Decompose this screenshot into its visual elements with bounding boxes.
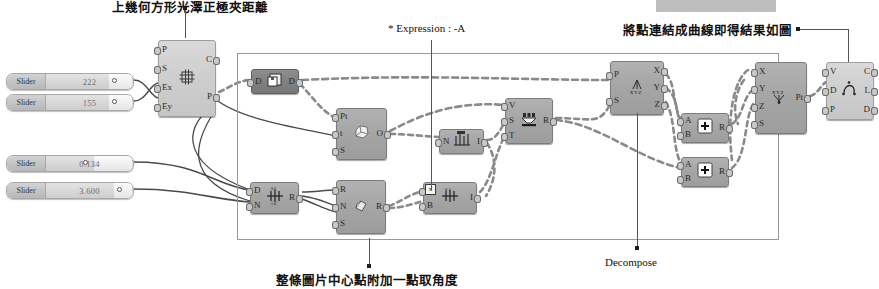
slider-track[interactable]: 155: [46, 95, 133, 110]
output-pin-r[interactable]: R: [719, 123, 725, 132]
output-port-d[interactable]: [871, 107, 878, 115]
input-port-ex[interactable]: [154, 85, 161, 93]
input-pin-b[interactable]: B: [685, 174, 691, 183]
output-pin-i[interactable]: I: [477, 137, 480, 146]
input-port-b[interactable]: [677, 176, 684, 184]
output-port-d[interactable]: [296, 79, 303, 87]
input-pin-s[interactable]: S: [509, 116, 514, 125]
output-pin-i[interactable]: I: [470, 193, 473, 202]
cluster-group-box[interactable]: [237, 53, 779, 240]
input-pin-ey[interactable]: Ey: [162, 102, 172, 111]
output-port-p[interactable]: [213, 94, 220, 102]
input-port-a[interactable]: [677, 118, 684, 126]
input-port-v[interactable]: [501, 103, 508, 111]
output-port-o[interactable]: [384, 131, 391, 139]
interpolate-curve-node[interactable]: VDPCLD: [826, 62, 874, 120]
output-pin-d[interactable]: D: [864, 105, 871, 114]
input-pin-p[interactable]: P: [830, 105, 835, 114]
input-port-n[interactable]: [332, 204, 339, 212]
input-pin-b[interactable]: B: [427, 201, 433, 210]
input-pin-r[interactable]: R: [340, 185, 346, 194]
input-port-x[interactable]: [751, 69, 758, 77]
input-pin-v[interactable]: V: [509, 101, 516, 110]
output-port-c[interactable]: [871, 69, 878, 77]
input-port-p[interactable]: [822, 107, 829, 115]
input-port-t[interactable]: [501, 133, 508, 141]
input-pin-s[interactable]: S: [340, 219, 345, 228]
input-pin-n[interactable]: N: [254, 201, 261, 210]
input-pin-y[interactable]: Y: [759, 84, 766, 93]
slider-knob[interactable]: [112, 78, 117, 83]
input-port-s[interactable]: [154, 66, 161, 74]
input-port-s[interactable]: [606, 98, 613, 106]
output-pin-x[interactable]: X: [654, 66, 661, 75]
output-port-y[interactable]: [661, 85, 668, 93]
input-pin-z[interactable]: Z: [759, 102, 765, 111]
input-port-v[interactable]: [822, 69, 829, 77]
input-pin-v[interactable]: V: [830, 67, 837, 76]
input-port-r[interactable]: [332, 187, 339, 195]
input-port-d[interactable]: [246, 188, 253, 196]
input-port-s[interactable]: [332, 148, 339, 156]
slider-output-port[interactable]: [132, 157, 134, 168]
input-port-n[interactable]: [246, 203, 253, 211]
input-pin-d[interactable]: D: [254, 186, 261, 195]
output-port-i[interactable]: [474, 195, 481, 203]
output-pin-r[interactable]: R: [376, 202, 382, 211]
input-port-b[interactable]: [419, 203, 426, 211]
input-pin-d[interactable]: D: [255, 77, 262, 86]
output-pin-r[interactable]: R: [543, 116, 549, 125]
input-port-d[interactable]: [822, 88, 829, 96]
input-pin-s[interactable]: S: [162, 64, 167, 73]
range-node[interactable]: NI: [439, 129, 484, 154]
output-port-z[interactable]: [661, 102, 668, 110]
output-port-c[interactable]: [213, 57, 220, 65]
input-port-p[interactable]: [154, 47, 161, 55]
output-pin-c[interactable]: C: [864, 67, 870, 76]
input-port-a[interactable]: [677, 162, 684, 170]
input-port-pt[interactable]: [332, 114, 339, 122]
slider-3[interactable]: Slider0.134: [6, 155, 134, 172]
output-pin-c[interactable]: C: [206, 55, 212, 64]
divide-domain-node[interactable]: DD: [251, 69, 299, 94]
output-port-r[interactable]: [383, 204, 390, 212]
output-pin-r[interactable]: R: [719, 167, 725, 176]
output-pin-o[interactable]: O: [377, 129, 384, 138]
rectangular-grid-node[interactable]: PSExEyCP: [158, 40, 216, 117]
input-port-p[interactable]: [606, 72, 613, 80]
input-pin-x[interactable]: X: [759, 67, 766, 76]
output-pin-p[interactable]: P: [207, 92, 212, 101]
input-port-y[interactable]: [751, 86, 758, 94]
input-pin-p[interactable]: P: [614, 70, 619, 79]
input-pin-pt[interactable]: Pt: [340, 112, 348, 121]
deconstruct-point-node[interactable]: X Y ZPSXYZ: [610, 61, 664, 115]
input-pin-t[interactable]: t: [340, 129, 343, 138]
input-port-b[interactable]: [677, 132, 684, 140]
input-pin-n[interactable]: N: [443, 137, 450, 146]
input-pin-s[interactable]: S: [340, 146, 345, 155]
input-pin-a[interactable]: A: [685, 160, 692, 169]
slider-track[interactable]: 3.600: [46, 183, 133, 198]
input-port-s[interactable]: [751, 121, 758, 129]
evaluate-surface-node[interactable]: PttSO: [336, 108, 387, 160]
input-port-z[interactable]: [751, 104, 758, 112]
input-port-s[interactable]: [332, 221, 339, 229]
output-pin-r[interactable]: R: [289, 193, 295, 202]
output-port-pt[interactable]: [804, 95, 811, 103]
input-pin-a[interactable]: A: [685, 116, 692, 125]
slider-track[interactable]: 0.134: [46, 156, 133, 171]
divide-curve-node[interactable]: 0.01.0DNR: [250, 182, 299, 214]
output-pin-d[interactable]: D: [289, 77, 296, 86]
input-pin-b[interactable]: B: [685, 130, 691, 139]
series-node[interactable]: VSTR: [505, 98, 553, 144]
output-port-r[interactable]: [726, 169, 733, 177]
output-pin-pt[interactable]: Pt: [795, 93, 803, 102]
addition-node-2[interactable]: ABR: [681, 157, 729, 187]
input-port-n[interactable]: [435, 139, 442, 147]
output-port-l[interactable]: [871, 88, 878, 96]
output-pin-l[interactable]: L: [865, 86, 871, 95]
slider-4[interactable]: Slider3.600: [6, 182, 134, 199]
addition-node-1[interactable]: ABR: [681, 113, 729, 143]
slider-output-port[interactable]: [132, 184, 134, 195]
